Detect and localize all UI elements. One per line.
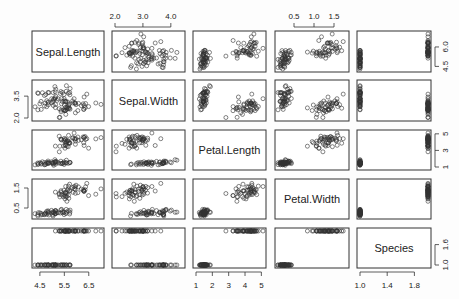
tick-label: 4.0 [165,12,177,21]
tick-label: 2.0 [12,112,21,124]
scatter-panel [193,80,266,121]
tick-label: 5.5 [59,281,71,290]
tick-label: 2.0 [109,12,121,21]
bottom-axis-Species: 1.01.41.8 [354,272,420,290]
tick-label: 0.5 [288,12,300,21]
tick-label: 5 [259,281,264,290]
left-axis-Sepal.Width: 2.03.5 [12,90,28,124]
tick-label: 3 [441,148,450,153]
diagonal-label-panel: Sepal.Width [112,80,185,121]
diagonal-label-panel: Sepal.Length [32,31,104,72]
scatter-panel [193,228,266,268]
scatter-panel [32,130,104,170]
tick-label: 4.5 [441,60,450,72]
right-axis-Petal.Length: 135 [435,131,450,169]
scatter-panel [357,130,431,170]
scatter-panel [112,31,185,72]
tick-label: 1.4 [382,281,394,290]
scatter-panel [357,179,431,219]
scatter-panel [275,80,349,121]
left-axis-Petal.Width: 0.51.5 [12,182,28,214]
right-axis-Species: 1.01.6 [435,238,450,270]
tick-label: 2 [210,281,215,290]
variable-label: Sepal.Width [119,95,178,107]
tick-label: 3.5 [12,90,21,102]
pairs-plot: Sepal.LengthSepal.WidthPetal.LengthPetal… [0,0,459,299]
scatter-panel [32,179,104,219]
scatter-panel [275,130,349,170]
scatter-panel [193,179,266,219]
tick-label: 5 [441,131,450,136]
scatter-panel [32,80,104,121]
scatter-panel [357,31,431,72]
tick-label: 1.5 [328,12,340,21]
top-axis-Petal.Width: 0.51.01.5 [288,12,340,27]
scatter-panel [193,31,266,72]
tick-label: 4 [243,281,248,290]
tick-label: 1.0 [308,12,320,21]
tick-label: 4.5 [34,281,46,290]
diagonal-label-panel: Petal.Length [193,130,266,170]
diagonal-label-panel: Petal.Width [275,179,349,219]
scatter-panel [32,228,104,268]
diagonal-label-panel: Species [357,228,431,268]
tick-label: 6.0 [441,41,450,53]
variable-label: Species [374,242,414,254]
variable-label: Petal.Length [199,144,261,156]
tick-label: 0.5 [12,202,21,214]
variable-label: Petal.Width [284,193,340,205]
pairs-plot-canvas: Sepal.LengthSepal.WidthPetal.LengthPetal… [0,0,459,299]
tick-label: 1.5 [12,182,21,194]
tick-label: 3 [226,281,231,290]
scatter-panel [112,179,185,219]
scatter-panel [112,130,185,170]
tick-label: 1 [441,164,450,169]
tick-label: 1.0 [441,259,450,271]
tick-label: 1 [194,281,199,290]
top-axis-Sepal.Width: 2.03.04.0 [109,12,177,27]
scatter-panel [112,228,185,268]
bottom-axis-Petal.Length: 12345 [194,272,264,290]
tick-label: 1.6 [441,238,450,250]
tick-label: 1.0 [354,281,366,290]
bottom-axis-Sepal.Length: 4.55.56.5 [34,272,95,290]
scatter-panel [357,80,431,121]
variable-label: Sepal.Length [36,46,101,58]
right-axis-Sepal.Length: 4.56.0 [435,41,450,72]
tick-label: 3.0 [137,12,149,21]
tick-label: 6.5 [83,281,95,290]
tick-label: 1.8 [409,281,421,290]
scatter-panel [275,228,349,268]
scatter-panel [275,31,349,72]
